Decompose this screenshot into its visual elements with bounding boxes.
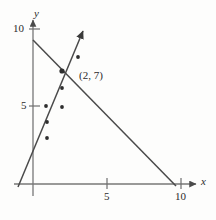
x-tick-label-5: 5 — [104, 191, 110, 202]
data-point — [44, 104, 48, 108]
y-axis-label: y — [34, 8, 39, 19]
data-point — [60, 105, 64, 109]
intersection-point-label: (2, 7) — [79, 70, 103, 81]
data-point — [60, 86, 64, 90]
x-axis-label: x — [201, 176, 206, 187]
x-tick-label-10: 10 — [175, 191, 186, 202]
graph-figure: y x 10 5 5 10 (2, 7) — [0, 0, 216, 220]
data-point — [45, 136, 49, 140]
intersection-point — [59, 68, 64, 73]
data-point — [45, 120, 49, 124]
data-point — [76, 55, 80, 59]
ascending-line — [18, 31, 83, 187]
plot-canvas — [0, 0, 216, 220]
y-tick-label-5: 5 — [21, 100, 27, 111]
descending-line — [33, 40, 176, 186]
y-tick-label-10: 10 — [13, 23, 24, 34]
